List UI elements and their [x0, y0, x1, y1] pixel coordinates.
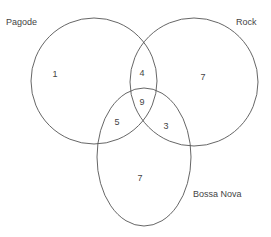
- set-ellipse-bossa-nova: [97, 88, 191, 226]
- region-count-bossa-nova-only: 7: [137, 173, 142, 183]
- set-circle-rock: [130, 18, 258, 146]
- region-count-pagode-bossa-nova: 5: [114, 117, 119, 127]
- set-circle-pagode: [31, 18, 157, 144]
- venn-diagram: Pagode Rock Bossa Nova 1 4 7 9 5 3 7: [0, 0, 271, 237]
- region-count-rock-bossa-nova: 3: [163, 121, 168, 131]
- region-count-pagode-rock: 4: [139, 68, 144, 78]
- set-label-pagode: Pagode: [6, 17, 37, 27]
- region-count-rock-only: 7: [200, 72, 205, 82]
- region-count-pagode-only: 1: [52, 69, 57, 79]
- set-label-rock: Rock: [236, 17, 257, 27]
- set-label-bossa-nova: Bossa Nova: [193, 189, 242, 199]
- region-count-all-three: 9: [139, 97, 144, 107]
